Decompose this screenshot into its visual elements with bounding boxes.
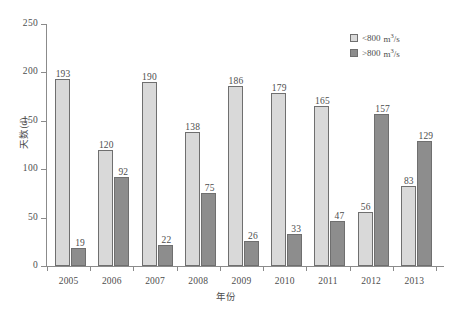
- y-axis-tick-label: 200: [23, 67, 38, 77]
- bar: 165: [314, 106, 329, 266]
- bar-group: 13875: [185, 24, 216, 266]
- legend-label: <800: [362, 33, 381, 43]
- bar-value-label: 26: [238, 231, 268, 241]
- x-axis-tick-label: 2008: [175, 276, 221, 286]
- bar-group: 19022: [142, 24, 173, 266]
- bar-group: 16547: [314, 24, 345, 266]
- bar-value-label: 165: [307, 96, 337, 106]
- bar: 75: [201, 193, 216, 266]
- x-axis-tick-label: 2012: [348, 276, 394, 286]
- x-axis-title: 年份: [0, 292, 452, 302]
- x-axis-tick: [393, 267, 394, 271]
- legend-item: <800m3/s: [350, 30, 400, 45]
- x-axis-tick-label: 2010: [262, 276, 308, 286]
- bar-value-label: 190: [135, 72, 165, 82]
- bar: 26: [244, 241, 259, 266]
- y-axis-tick: [41, 266, 46, 267]
- y-axis-tick-label: 50: [28, 213, 38, 223]
- legend-unit: m3/s: [384, 46, 400, 59]
- bar-group: 12092: [98, 24, 129, 266]
- bar-group: 17933: [271, 24, 302, 266]
- x-axis-tick-label: 2007: [132, 276, 178, 286]
- bar: 19: [71, 248, 86, 266]
- x-axis-tick: [263, 267, 264, 271]
- bar-value-label: 47: [324, 211, 354, 221]
- x-axis-line: [46, 266, 444, 267]
- x-axis-tick: [90, 267, 91, 271]
- y-axis-title: 天数(d): [19, 103, 29, 163]
- bar: 129: [417, 141, 432, 266]
- bar-group: 18626: [228, 24, 259, 266]
- legend-label: >800: [362, 48, 381, 58]
- plot-area: 1931912092190221387518626179331654756157…: [47, 24, 436, 266]
- y-axis-tick: [41, 72, 46, 73]
- x-axis-tick: [220, 267, 221, 271]
- bar-value-label: 193: [48, 69, 78, 79]
- bar-value-label: 157: [368, 104, 398, 114]
- x-axis-tick-label: 2011: [305, 276, 351, 286]
- y-axis-tick-label: 0: [33, 261, 38, 271]
- bar-value-label: 120: [91, 140, 121, 150]
- x-axis-tick: [306, 267, 307, 271]
- y-axis-tick: [41, 218, 46, 219]
- x-axis-tick: [133, 267, 134, 271]
- bar: 47: [330, 221, 345, 266]
- bar: 22: [158, 245, 173, 266]
- x-axis-tick: [47, 267, 48, 271]
- bar: 92: [114, 177, 129, 266]
- legend-unit: m3/s: [384, 31, 400, 44]
- x-axis-tick-label: 2009: [219, 276, 265, 286]
- chart-legend: <800m3/s>800m3/s: [350, 30, 400, 60]
- bar-value-label: 19: [65, 238, 95, 248]
- bar-group: 56157: [358, 24, 389, 266]
- bar-value-label: 22: [152, 235, 182, 245]
- bar-value-label: 138: [178, 122, 208, 132]
- bar-value-label: 179: [264, 83, 294, 93]
- legend-swatch: [350, 34, 358, 42]
- legend-item: >800m3/s: [350, 45, 400, 60]
- bar: 83: [401, 186, 416, 266]
- bar-group: 19319: [55, 24, 86, 266]
- bar: 33: [287, 234, 302, 266]
- bar-chart: 050100150200250 天数(d) 193191209219022138…: [0, 0, 452, 315]
- bar-value-label: 75: [195, 183, 225, 193]
- bar-group: 83129: [401, 24, 432, 266]
- x-axis-tick-label: 2006: [89, 276, 135, 286]
- bar-value-label: 129: [411, 131, 441, 141]
- y-axis-tick: [41, 169, 46, 170]
- y-axis-tick: [41, 121, 46, 122]
- x-axis-tick-label: 2005: [46, 276, 92, 286]
- x-axis-tick: [350, 267, 351, 271]
- bar-value-label: 186: [221, 76, 251, 86]
- y-axis-tick-label: 100: [23, 164, 38, 174]
- bar: 56: [358, 212, 373, 266]
- legend-swatch: [350, 49, 358, 57]
- x-axis-tick: [436, 267, 437, 271]
- x-axis-tick-label: 2013: [391, 276, 437, 286]
- x-axis-tick: [177, 267, 178, 271]
- bar: 179: [271, 93, 286, 266]
- bar: 157: [374, 114, 389, 266]
- bar-value-label: 33: [281, 224, 311, 234]
- y-axis-tick: [41, 24, 46, 25]
- bar-value-label: 92: [108, 167, 138, 177]
- bar: 138: [185, 132, 200, 266]
- y-axis-tick-label: 250: [23, 19, 38, 29]
